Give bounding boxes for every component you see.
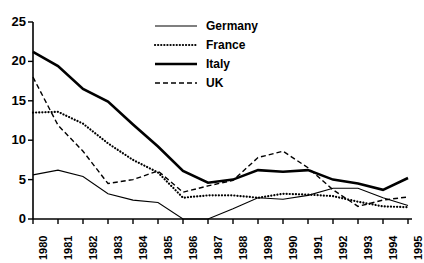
x-axis-tick-label: 1993 [363,236,374,260]
x-axis-tick-label: 1983 [113,236,124,260]
x-axis-tick-label: 1995 [413,236,424,260]
y-axis-tick-label: 20 [0,54,26,67]
x-axis-tick-label: 1986 [188,236,199,260]
x-axis-tick-label: 1990 [288,236,299,260]
x-axis-tick-label: 1991 [313,236,324,260]
x-axis-tick-label: 1994 [388,236,399,260]
x-axis-tick-label: 1985 [163,236,174,260]
series-line-italy [33,52,408,190]
legend-label-uk: UK [206,77,223,89]
y-axis-tick-label: 5 [0,173,26,186]
legend-label-france: France [206,39,245,51]
x-axis-tick-label: 1982 [88,236,99,260]
x-axis-tick-label: 1988 [238,236,249,260]
series-line-uk [33,77,408,206]
legend-label-italy: Italy [206,58,230,70]
x-axis-tick-label: 1980 [38,236,49,260]
x-axis-tick-label: 1984 [138,236,149,260]
y-axis-tick-label: 10 [0,133,26,146]
legend-label-germany: Germany [206,20,258,32]
x-axis-tick-label: 1992 [338,236,349,260]
x-axis-tick-label: 1981 [63,236,74,260]
y-axis-tick-label: 0 [0,212,26,225]
y-axis-tick-label: 25 [0,15,26,28]
series-line-germany [33,170,408,219]
x-axis-tick-label: 1987 [213,236,224,260]
y-axis-tick-label: 15 [0,94,26,107]
x-axis-tick-label: 1989 [263,236,274,260]
